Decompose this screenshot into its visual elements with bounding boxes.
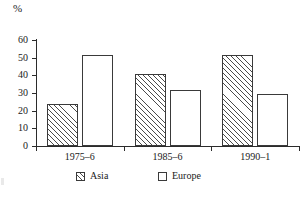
hatched-square-icon bbox=[76, 172, 85, 181]
legend-item-asia: Asia bbox=[76, 170, 108, 182]
bars-area bbox=[36, 40, 299, 146]
y-axis-tick-label: 50 bbox=[0, 53, 28, 63]
bar-asia-0 bbox=[47, 104, 78, 146]
legend-item-europe: Europe bbox=[158, 170, 201, 182]
y-axis-tick-label: 60 bbox=[0, 35, 28, 45]
y-axis-tick-label: 20 bbox=[0, 106, 28, 116]
bar-europe-1 bbox=[170, 90, 201, 146]
y-axis-tick-label: 30 bbox=[0, 88, 28, 98]
y-axis-tick-label: 10 bbox=[0, 123, 28, 133]
y-axis-tick-label: 0 bbox=[0, 141, 28, 151]
y-axis-tick-label: 40 bbox=[0, 70, 28, 80]
y-axis-unit-label: % bbox=[13, 3, 22, 14]
x-axis-line bbox=[36, 146, 299, 147]
chart-legend: AsiaEurope bbox=[0, 170, 304, 188]
x-axis-category-label: 1990–1 bbox=[211, 151, 299, 162]
empty-square-icon bbox=[158, 172, 167, 181]
legend-item-label: Europe bbox=[172, 170, 201, 182]
x-axis-category-label: 1985–6 bbox=[124, 151, 212, 162]
x-axis-category-label: 1975–6 bbox=[36, 151, 124, 162]
x-axis-tick bbox=[299, 146, 300, 151]
legend-item-label: Asia bbox=[90, 170, 108, 182]
bar-europe-2 bbox=[257, 94, 288, 146]
bar-europe-0 bbox=[82, 55, 113, 146]
scan-artifact bbox=[1, 178, 4, 185]
bar-asia-2 bbox=[222, 55, 253, 146]
bar-asia-1 bbox=[135, 74, 166, 146]
bar-chart: % 0102030405060 1975–61985–61990–1 AsiaE… bbox=[0, 0, 304, 198]
